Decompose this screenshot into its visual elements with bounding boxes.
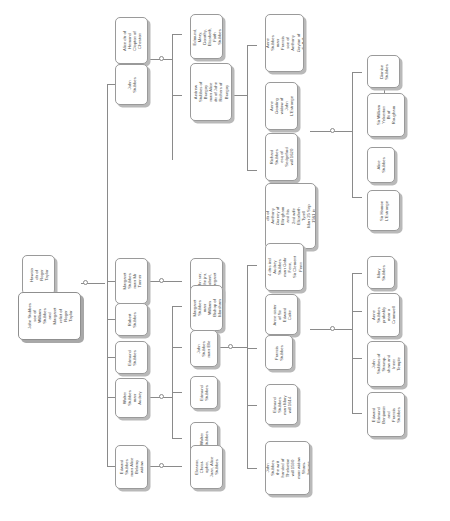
connector-child-walter2 (172, 438, 182, 439)
node-mary-stubbes-label: Mary Stubbes (376, 265, 386, 281)
node-elizabeth-gurney-label: Elizabeth dtr of Anthony Gurney of Ellin… (265, 204, 316, 227)
node-francis-stubbes[interactable]: Francis Stubbes (265, 335, 293, 370)
connector-bus-andrew-children (247, 45, 248, 170)
connector-child-edwardedmund (352, 413, 362, 414)
connector-child-richard (247, 170, 257, 171)
marriage-joint-edward (159, 463, 164, 468)
node-walter-stubbes-audrey[interactable]: Walter Stubbes marr Audrey (115, 378, 148, 418)
node-walter-stubbes-2-label: Walter Stubbes (199, 431, 209, 447)
node-alice-stubbes-label: Alice Stubbes (376, 157, 386, 173)
node-john-stubbes-elle-label: John Stubbes marr Elle (196, 340, 211, 357)
node-anne-stubbes-goyton[interactable]: Anne Stubbes marr Francis son of Anthony… (265, 14, 304, 72)
marriage-joint-richard (330, 128, 335, 133)
node-richard-stubbes-label: Richard Stubbes esq of Sedgeford will 16… (269, 147, 294, 167)
node-edward-stubbes-belamy-label: Edward Stubbes marr Alice Belamy widow (119, 458, 144, 477)
node-edmund-stubbes-2-label: Edmund Stubbes (199, 385, 209, 401)
marriage-joint-root (83, 280, 88, 285)
connector-child-annegoyton (247, 45, 257, 46)
connector-child-john2 (107, 84, 115, 85)
marriage-joint-john2 (159, 56, 164, 61)
node-sir-hamon-lestrange[interactable]: Sir Hamon L'Estrange (367, 190, 400, 231)
node-andrew-stubbes[interactable]: Andrew Stubbes of Bungay marr Alice dtr … (190, 63, 232, 121)
node-anne-stubbes-cromwell[interactable]: Anne Stubbes probably marr a Cromwell (367, 293, 400, 337)
node-eleanor-christopher-label: Eleanor, Christ- opher, Joan, Alice Stub… (194, 457, 219, 477)
connector-child-annecromwell (352, 311, 362, 312)
connector-child-edward (107, 466, 115, 467)
node-eleanor-christopher[interactable]: Eleanor, Christ- opher, Joan, Alice Stub… (190, 445, 223, 489)
connector-bus-john2-children (172, 34, 173, 160)
node-alice-clopton[interactable]: Alice dtr of Hemond Clopton of Cheston (115, 17, 148, 64)
connector-edward-to-child (172, 466, 182, 467)
node-edmund-mary-dorothy-label: Edmund, Mary, Dorothy, Elizabeth, Faith … (191, 27, 222, 46)
node-anne-gooding[interactable]: Anne Gooding widow of John L'Estrange (265, 82, 298, 130)
family-tree-diagram: Hawcia dtr of Roger Taylor John Stubbes … (0, 0, 450, 521)
node-john-stubbes-2-label: John Stubbes (126, 77, 136, 93)
node-edmund-stubbes-2[interactable]: Edmund Stubbes (190, 376, 218, 409)
connector-child-edmundmary (172, 34, 182, 35)
node-richard-stubbes[interactable]: Richard Stubbes esq of Sedgeford will 16… (265, 133, 298, 181)
node-edmund-stubbes[interactable]: Edmund Stubbes (115, 341, 148, 374)
node-four-dtrs-audrey[interactable]: 4 dtrs incl Audrey Stubbes marr Gabr Fen… (265, 243, 304, 291)
node-margaret-stubbes-william[interactable]: Margaret Stubbes marr William Bishop of … (190, 285, 223, 331)
node-robert-stubbes-label: Robert Stubbes (126, 312, 136, 328)
node-anne-coke[interactable]: Anne sister of Sir Edward Coke (265, 294, 298, 335)
node-john-stubbes-thelveton[interactable]: John Stubbes the writ handed of Thelveto… (265, 441, 310, 495)
node-edward-edmund-benjamin[interactable]: Edward Edmund Benjamin and Francis Stubb… (367, 392, 405, 437)
node-hawcia-taylor-label: Hawcia dtr of Roger Taylor (28, 268, 48, 282)
node-anne-stubbes-cromwell-label: Anne Stubbes probably marr a Cromwell (371, 306, 396, 324)
node-margaret-stubbes-tanner-label: Margaret Stubbes marr Mr Tanner (121, 273, 141, 290)
node-dionise-stubbes[interactable]: Dionise Stubbes (367, 55, 400, 88)
node-edward-edmund-benjamin-label: Edward Edmund Benjamin and Francis Stubb… (371, 406, 402, 424)
node-walter-stubbes-audrey-label: Walter Stubbes marr Audrey (121, 390, 141, 406)
connector-child-edmund2 (172, 392, 182, 393)
node-john-stubbes-root-label: John Stubbes son of William Stubbes and … (27, 303, 73, 329)
node-john-stubbes-strumpshaw-label: John Stubbes of Strump- shaw and Inner T… (371, 354, 402, 374)
node-john-stubbes-thelveton-label: John Stubbes the writ handed of Thelveto… (265, 457, 310, 479)
node-robert-stubbes[interactable]: Robert Stubbes (115, 303, 148, 336)
connector-child-fourdtrs (247, 265, 257, 266)
node-john-stubbes-root[interactable]: John Stubbes son of William Stubbes and … (18, 292, 81, 340)
connector-child-edmund (107, 357, 115, 358)
node-andrew-stubbes-label: Andrew Stubbes of Bungay marr Alice dtr … (193, 82, 229, 102)
connector-child-alicestubbes (352, 197, 362, 198)
connector-child-francis (247, 348, 257, 349)
node-mary-stubbes[interactable]: Mary Stubbes (367, 256, 395, 289)
node-edward-stubbes-belamy[interactable]: Edward Stubbes marr Alice Belamy widow (115, 445, 148, 489)
node-sir-william-yelverton-label: Sir William Yelverton Bt of Rougham (376, 105, 396, 125)
node-edmund-mary-dorothy[interactable]: Edmund, Mary, Dorothy, Elizabeth, Faith … (190, 14, 223, 59)
connector-child-edmundmary2 (247, 405, 257, 406)
connector-bus-richard-children (352, 72, 353, 197)
marriage-joint-margaret (159, 278, 164, 283)
node-anne-gooding-label: Anne Gooding widow of John L'Estrange (269, 96, 294, 116)
connector-child-johnthelveton (247, 468, 257, 469)
node-john-stubbes-strumpshaw[interactable]: John Stubbes of Strump- shaw and Inner T… (367, 341, 405, 387)
connector-margaret-to-child (172, 281, 182, 282)
node-margaret-stubbes-william-label: Margaret Stubbes marr William Bishop of … (191, 299, 222, 317)
connector-child-margaret (107, 281, 115, 282)
node-edmund-stubbes-mary-label: Edmund Stubbes marr Mary will 1614 (271, 395, 291, 414)
node-sir-william-yelverton[interactable]: Sir William Yelverton Bt of Rougham (367, 93, 405, 137)
marriage-joint-johnelle (228, 344, 233, 349)
node-john-stubbes-elle[interactable]: John Stubbes marr Elle (190, 330, 218, 367)
node-edmund-stubbes-mary[interactable]: Edmund Stubbes marr Mary will 1614 (265, 384, 298, 425)
marriage-joint-walter (159, 394, 164, 399)
node-francis-stubbes-label: Francis Stubbes (274, 345, 284, 361)
node-margaret-stubbes-tanner[interactable]: Margaret Stubbes marr Mr Tanner (115, 258, 148, 304)
connector-child-johnstrumpshaw (352, 358, 362, 359)
node-anne-stubbes-goyton-label: Anne Stubbes marr Francis son of Anthony… (265, 34, 304, 52)
connector-child-robert (107, 319, 115, 320)
node-edmund-stubbes-label: Edmund Stubbes (126, 350, 136, 366)
node-hawcia-taylor[interactable]: Hawcia dtr of Roger Taylor (22, 255, 55, 295)
node-john-stubbes-2[interactable]: John Stubbes (115, 64, 148, 105)
connector-bus-walter-children (172, 306, 173, 438)
connector-child-johnelle (172, 347, 182, 348)
connector-child-mary (352, 273, 362, 274)
node-dionise-stubbes-label: Dionise Stubbes (378, 64, 388, 80)
node-alice-clopton-label: Alice dtr of Hemond Clopton of Cheston (121, 30, 141, 50)
connector-child-margaretwilliam (172, 306, 182, 307)
connector-andrew-to-bus (232, 95, 247, 96)
node-elizabeth-gurney[interactable]: Elizabeth dtr of Anthony Gurney of Ellin… (265, 183, 316, 249)
connector-bus-johnelle-children (247, 265, 248, 468)
node-alice-stubbes[interactable]: Alice Stubbes (367, 147, 395, 183)
node-anne-coke-label: Anne sister of Sir Edward Coke (271, 304, 291, 325)
